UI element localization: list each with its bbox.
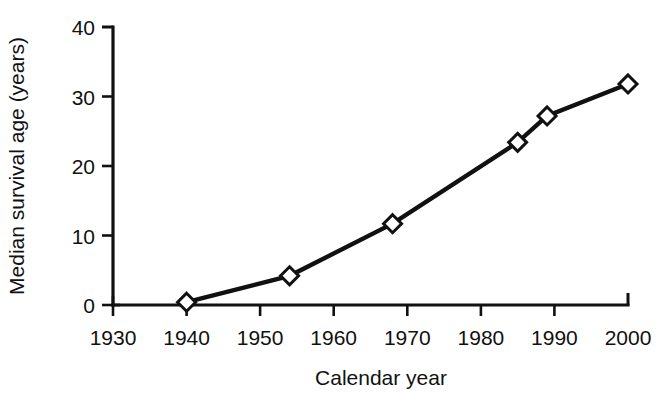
y-tick-label-10: 10 xyxy=(72,225,95,248)
chart-figure: 40 30 20 10 0 1930 1940 1950 1960 1970 1… xyxy=(0,0,671,397)
x-tick-label-1970: 1970 xyxy=(384,326,431,349)
series-markers xyxy=(178,75,637,311)
x-tick-label-1950: 1950 xyxy=(237,326,284,349)
x-tick-label-1940: 1940 xyxy=(163,326,210,349)
x-tick-label-2000: 2000 xyxy=(605,326,652,349)
x-tick-label-1930: 1930 xyxy=(90,326,137,349)
x-tick-label-1960: 1960 xyxy=(310,326,357,349)
data-series-median-survival-age xyxy=(178,75,637,311)
x-axis-title: Calendar year xyxy=(315,366,447,389)
x-tick-label-1980: 1980 xyxy=(458,326,505,349)
data-point-marker xyxy=(178,293,196,311)
y-tick-label-30: 30 xyxy=(72,86,95,109)
y-axis-title: Median survival age (years) xyxy=(5,37,28,295)
data-point-marker xyxy=(281,267,299,285)
x-tick-label-1990: 1990 xyxy=(531,326,578,349)
line-chart-canvas: 40 30 20 10 0 1930 1940 1950 1960 1970 1… xyxy=(0,0,671,397)
y-axis-tick-labels: 40 30 20 10 0 xyxy=(72,16,95,317)
y-tick-label-40: 40 xyxy=(72,16,95,39)
y-axis-ticks xyxy=(102,27,120,305)
data-point-marker xyxy=(619,75,637,93)
series-line xyxy=(187,84,628,302)
y-tick-label-0: 0 xyxy=(83,294,95,317)
chart-axes xyxy=(102,27,628,305)
x-axis-tick-labels: 1930 1940 1950 1960 1970 1980 1990 2000 xyxy=(90,326,652,349)
y-tick-label-20: 20 xyxy=(72,155,95,178)
